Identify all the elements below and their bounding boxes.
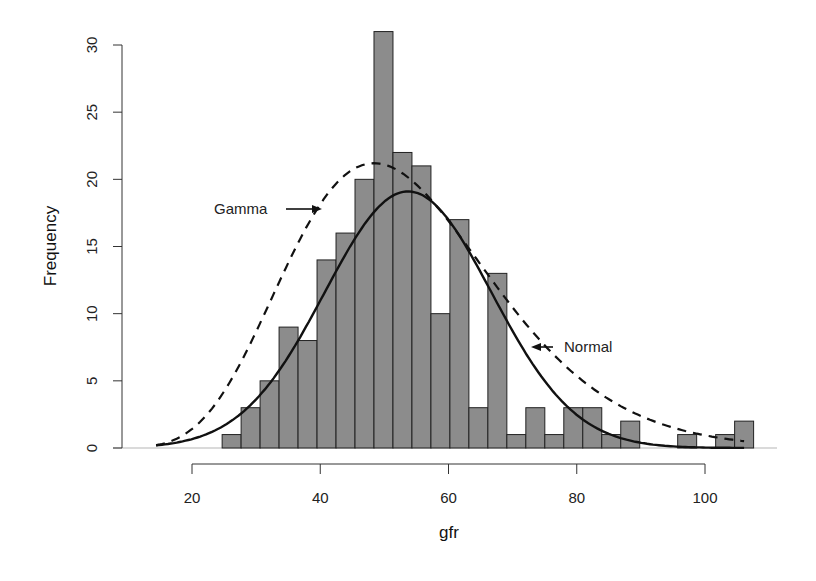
histogram-bar xyxy=(355,179,374,448)
y-axis-title: Frequency xyxy=(41,205,60,286)
normal-annotation: Normal xyxy=(531,338,612,355)
y-tick-label: 5 xyxy=(83,377,100,385)
x-tick-label: 20 xyxy=(184,489,201,506)
y-tick-label: 30 xyxy=(83,37,100,54)
y-tick-label: 10 xyxy=(83,305,100,322)
histogram-bar xyxy=(526,408,545,448)
x-axis-title: gfr xyxy=(439,523,459,542)
arrowhead-right-icon xyxy=(312,205,322,213)
y-axis: 051015202530 xyxy=(83,37,122,453)
histogram-bar xyxy=(545,435,564,448)
gamma-annotation: Gamma xyxy=(214,200,322,217)
histogram-bar xyxy=(564,408,583,448)
x-tick-label: 60 xyxy=(440,489,457,506)
histogram-bar xyxy=(431,314,450,448)
histogram-bar xyxy=(507,435,526,448)
x-tick-label: 100 xyxy=(692,489,717,506)
x-tick-label: 40 xyxy=(312,489,329,506)
histogram-bar xyxy=(374,32,393,448)
arrowhead-left-icon xyxy=(531,343,541,351)
x-tick-label: 80 xyxy=(568,489,585,506)
x-axis: 20406080100 xyxy=(184,464,718,506)
histogram-bar xyxy=(222,435,241,448)
y-tick-label: 20 xyxy=(83,171,100,188)
y-tick-label: 0 xyxy=(83,444,100,452)
histogram-bar xyxy=(298,341,317,448)
y-tick-label: 25 xyxy=(83,104,100,121)
histogram-bars xyxy=(222,32,753,448)
histogram-bar xyxy=(735,421,754,448)
y-tick-label: 15 xyxy=(83,238,100,255)
normal-label: Normal xyxy=(564,338,612,355)
histogram-bar xyxy=(583,408,602,448)
histogram-bar xyxy=(412,166,431,448)
histogram-bar xyxy=(469,408,488,448)
histogram-bar xyxy=(488,273,507,448)
gamma-label: Gamma xyxy=(214,200,268,217)
histogram-bar xyxy=(241,408,260,448)
histogram-bar xyxy=(716,435,735,448)
histogram-bar xyxy=(450,220,469,448)
histogram-chart: 051015202530 20406080100 gfr Frequency G… xyxy=(0,0,816,581)
histogram-bar xyxy=(393,152,412,448)
histogram-bar xyxy=(621,421,640,448)
